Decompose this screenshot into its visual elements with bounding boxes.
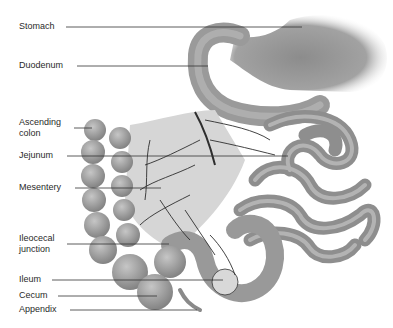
label-stomach: Stomach xyxy=(19,21,55,32)
label-ileocecal-junction: Ileocecal junction xyxy=(19,233,55,255)
cecum-shape xyxy=(112,246,186,310)
label-ileum: Ileum xyxy=(19,274,41,285)
label-mesentery: Mesentery xyxy=(19,182,61,193)
label-duodenum: Duodenum xyxy=(19,60,63,71)
label-appendix: Appendix xyxy=(19,304,57,315)
anatomy-illustration xyxy=(0,0,393,328)
label-cecum: Cecum xyxy=(19,290,48,301)
label-ascending-colon: Ascending colon xyxy=(19,117,61,139)
label-jejunum: Jejunum xyxy=(19,150,53,161)
appendix-shape xyxy=(180,290,200,310)
